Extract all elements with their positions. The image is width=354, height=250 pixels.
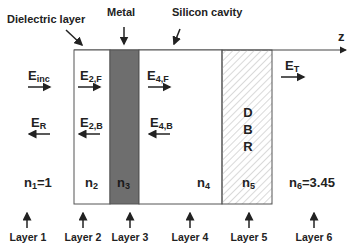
n5-label: n5 <box>242 175 255 191</box>
layer-5-label: Layer 5 <box>227 231 271 243</box>
n2-label: n2 <box>85 175 98 191</box>
layer-1-label: Layer 1 <box>7 231 49 243</box>
n1-label: n1=1 <box>24 175 52 191</box>
e4b-label: E4,B <box>150 115 173 131</box>
layer-4-label: Layer 4 <box>168 231 212 243</box>
e-inc-label: Einc <box>28 68 50 84</box>
layer-2-label: Layer 2 <box>61 231 105 243</box>
et-label: ET <box>285 58 299 74</box>
n3-label: n3 <box>117 175 130 191</box>
layer-3-label: Layer 3 <box>108 231 152 243</box>
n6-label: n6=3.45 <box>289 175 335 191</box>
e2f-label: E2,F <box>80 68 102 84</box>
e4f-label: E4,F <box>147 68 169 84</box>
layer-6-label: Layer 6 <box>292 231 336 243</box>
structure-drawing <box>0 0 354 250</box>
silicon-cavity-label: Silicon cavity <box>172 6 242 18</box>
silicon-pointer-arrow <box>174 29 180 44</box>
dielectric-layer-label: Dielectric layer <box>7 13 85 25</box>
dbr-label: D B R <box>242 104 254 155</box>
z-axis-label: z <box>338 29 345 44</box>
e-r-label: ER <box>31 115 46 131</box>
n4-label: n4 <box>197 175 210 191</box>
metal-label: Metal <box>107 6 135 18</box>
e2b-label: E2,B <box>80 115 103 131</box>
dielectric-pointer-arrow <box>66 30 82 45</box>
